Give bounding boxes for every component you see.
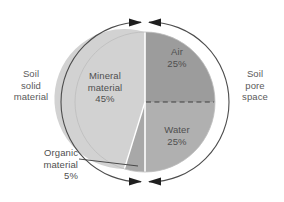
callout-label-organic-material: Organic material 5%	[6, 147, 78, 182]
side-label-soil-pore-space: Soil pore space	[228, 68, 282, 103]
bottom-arrowheads	[129, 178, 161, 186]
arrow-right-icon	[129, 19, 142, 27]
slice-label-water: Water 25%	[148, 124, 206, 147]
slice-label-air: Air 25%	[148, 46, 206, 69]
slice-label-mineral-material: Mineral material 45%	[73, 70, 137, 105]
arrow-right-icon	[129, 178, 142, 186]
soil-composition-pie-figure: Air 25% Water 25% Mineral material 45% S…	[0, 0, 284, 202]
side-label-soil-solid-material: Soil solid material	[2, 68, 60, 103]
top-arrowheads	[129, 19, 161, 27]
arrow-left-icon	[148, 178, 161, 186]
arrow-left-icon	[148, 19, 161, 27]
